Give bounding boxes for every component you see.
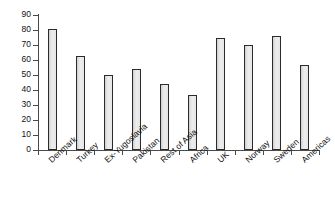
bar (48, 29, 57, 151)
y-axis-tick-label: 60 (0, 55, 31, 64)
x-axis-tick (38, 150, 39, 155)
y-axis-tick-label-text: 30 (1, 100, 31, 109)
bar (244, 45, 253, 150)
bar (160, 84, 169, 150)
y-axis-tick-label: 50 (0, 70, 31, 79)
bar (272, 36, 281, 150)
y-axis-line (38, 14, 39, 151)
y-axis-tick-label: 70 (0, 40, 31, 49)
y-axis-tick-label-text: 10 (1, 130, 31, 139)
bar-chart-plot: 0102030405060708090 DenmarkTurkeyEx-Yugo… (0, 0, 335, 216)
x-axis-tick (235, 150, 236, 155)
chart-page: 0102030405060708090 DenmarkTurkeyEx-Yugo… (0, 0, 335, 216)
y-axis-tick (33, 90, 39, 91)
x-axis-category-label: UK (216, 150, 231, 165)
y-axis-tick (33, 15, 39, 16)
y-axis-tick-label: 0 (0, 145, 31, 154)
y-axis-tick-label: 80 (0, 25, 31, 34)
y-axis-tick (33, 45, 39, 46)
y-axis-tick-label-text: 60 (1, 55, 31, 64)
y-axis-tick-label: 90 (0, 10, 31, 19)
bar (76, 56, 85, 151)
y-axis-tick-label-text: 70 (1, 40, 31, 49)
bar (216, 38, 225, 151)
bar (300, 65, 309, 151)
y-axis-tick (33, 60, 39, 61)
y-axis-tick-label-text: 20 (1, 115, 31, 124)
bar (104, 75, 113, 150)
y-axis-tick-label: 20 (0, 115, 31, 124)
y-axis-tick-label: 10 (0, 130, 31, 139)
y-axis-tick-label-text: 40 (1, 85, 31, 94)
y-axis-tick (33, 135, 39, 136)
y-axis-tick-label-text: 90 (1, 10, 31, 19)
y-axis-tick-label-text: 50 (1, 70, 31, 79)
y-axis-tick (33, 30, 39, 31)
y-axis-tick (33, 120, 39, 121)
y-axis-tick-label-text: 0 (1, 145, 31, 154)
y-axis-tick-label: 30 (0, 100, 31, 109)
y-axis-tick-label: 40 (0, 85, 31, 94)
y-axis-tick-label-text: 80 (1, 25, 31, 34)
y-axis-tick (33, 75, 39, 76)
y-axis-tick (33, 105, 39, 106)
